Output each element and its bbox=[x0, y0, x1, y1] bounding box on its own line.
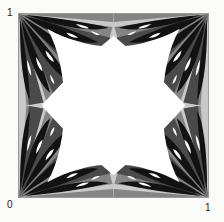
y-axis-max-label: 1 bbox=[7, 8, 13, 18]
fractal-image bbox=[19, 14, 208, 197]
plot-area bbox=[18, 13, 209, 198]
x-axis-max-label: 1 bbox=[205, 203, 211, 213]
figure-container: 1 0 1 bbox=[0, 0, 224, 222]
y-axis-min-label: 0 bbox=[7, 200, 13, 210]
